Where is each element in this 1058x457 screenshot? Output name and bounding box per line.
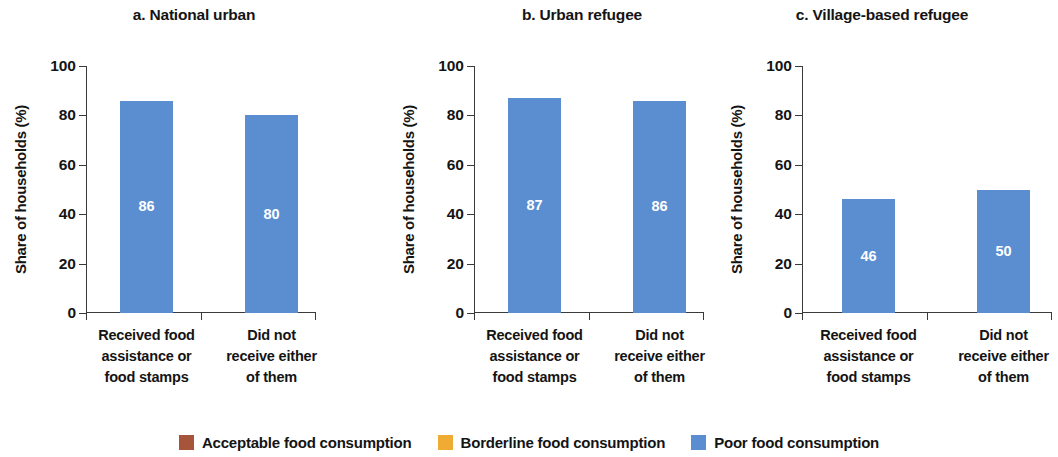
- x-axis-category-label: Received foodassistance orfood stamps: [799, 325, 939, 388]
- x-axis-tick-mark: [474, 313, 475, 320]
- x-axis-category-line: Received food: [465, 325, 605, 346]
- y-axis-tick-mark: [795, 115, 802, 116]
- x-axis-category-line: Received food: [77, 325, 217, 346]
- plot-area: 34194646450: [802, 66, 1052, 313]
- x-axis-category-line: receive either: [202, 346, 342, 367]
- y-axis-label: Share of households (%): [728, 66, 750, 313]
- y-axis-tick-mark: [467, 313, 474, 314]
- y-axis-tick-mark: [795, 66, 802, 67]
- bar-segment-value-label: 87: [508, 198, 561, 213]
- x-axis-category-line: food stamps: [77, 367, 217, 388]
- x-axis-category-line: assistance or: [77, 346, 217, 367]
- y-axis-tick-label: 80: [42, 106, 76, 124]
- x-axis-tick-mark: [86, 313, 87, 320]
- chart-legend: Acceptable food consumptionBorderline fo…: [0, 434, 1058, 451]
- y-axis-tick-label: 100: [758, 57, 792, 75]
- legend-swatch-icon: [438, 435, 453, 450]
- legend-label: Poor food consumption: [714, 434, 879, 451]
- x-axis-tick-mark: [315, 313, 316, 320]
- x-axis-tick-mark: [927, 313, 928, 320]
- x-axis-category-label: Did notreceive eitherof them: [934, 325, 1058, 388]
- y-axis-tick-mark: [79, 264, 86, 265]
- bar-segment-value-label: 86: [120, 199, 173, 214]
- x-axis-category-line: Did not: [202, 325, 342, 346]
- y-axis-tick-label: 0: [758, 304, 792, 322]
- y-axis-tick-label: 20: [430, 255, 464, 273]
- x-axis-tick-mark: [1051, 313, 1052, 320]
- stacked-bar[interactable]: 6887: [508, 66, 561, 313]
- stacked-bar[interactable]: 41086: [120, 66, 173, 313]
- y-axis-tick-label: 0: [430, 304, 464, 322]
- legend-item[interactable]: Poor food consumption: [691, 434, 879, 451]
- legend-label: Borderline food consumption: [461, 434, 666, 451]
- x-axis-tick-mark: [589, 313, 590, 320]
- chart-panel-a: a. National urbanShare of households (%)…: [0, 0, 388, 420]
- stacked-bar[interactable]: 46450: [977, 66, 1030, 313]
- x-axis-category-line: receive either: [934, 346, 1058, 367]
- y-axis-tick-label: 60: [42, 156, 76, 174]
- x-axis-category-line: assistance or: [799, 346, 939, 367]
- y-axis-tick-mark: [79, 214, 86, 215]
- y-axis-tick-label: 100: [42, 57, 76, 75]
- y-axis-tick-label: 20: [42, 255, 76, 273]
- y-axis-tick-label: 100: [430, 57, 464, 75]
- bar-segment-value-label: 50: [977, 244, 1030, 259]
- y-axis-tick-mark: [795, 214, 802, 215]
- panel-title: a. National urban: [0, 6, 388, 24]
- y-axis-tick-label: 60: [430, 156, 464, 174]
- y-axis-label: Share of households (%): [400, 66, 422, 313]
- x-axis-category-label: Received foodassistance orfood stamps: [465, 325, 605, 388]
- panel-title: c. Village-based refugee: [706, 6, 1058, 24]
- y-axis-tick-mark: [79, 66, 86, 67]
- x-axis-category-line: Received food: [799, 325, 939, 346]
- y-axis-label: Share of households (%): [12, 66, 34, 313]
- y-axis-tick-mark: [795, 313, 802, 314]
- chart-panel-c: c. Village-based refugeeShare of househo…: [706, 0, 1058, 420]
- y-axis-tick-label: 60: [758, 156, 792, 174]
- y-axis-tick-label: 40: [758, 205, 792, 223]
- bar-segment-value-label: 86: [633, 199, 686, 214]
- bar-segment-value-label: 80: [245, 207, 298, 222]
- legend-label: Acceptable food consumption: [202, 434, 412, 451]
- y-axis-line: [474, 66, 475, 313]
- stacked-bar-chart-figure: a. National urbanShare of households (%)…: [0, 0, 1058, 457]
- stacked-bar[interactable]: 81280: [245, 66, 298, 313]
- y-axis-tick-mark: [467, 165, 474, 166]
- legend-item[interactable]: Borderline food consumption: [438, 434, 666, 451]
- y-axis-tick-mark: [79, 165, 86, 166]
- x-axis-category-line: food stamps: [799, 367, 939, 388]
- y-axis-tick-label: 40: [42, 205, 76, 223]
- y-axis-tick-label: 20: [758, 255, 792, 273]
- x-axis-tick-mark: [802, 313, 803, 320]
- stacked-bar[interactable]: 7786: [633, 66, 686, 313]
- y-axis-line: [802, 66, 803, 313]
- x-axis-category-line: of them: [202, 367, 342, 388]
- y-axis-line: [86, 66, 87, 313]
- y-axis-tick-mark: [467, 214, 474, 215]
- legend-swatch-icon: [691, 435, 706, 450]
- y-axis-tick-label: 40: [430, 205, 464, 223]
- x-axis-category-line: of them: [934, 367, 1058, 388]
- bar-segment-value-label: 46: [842, 249, 895, 264]
- y-axis-tick-label: 80: [430, 106, 464, 124]
- y-axis-tick-mark: [795, 264, 802, 265]
- x-axis-tick-mark: [201, 313, 202, 320]
- x-axis-category-line: Did not: [934, 325, 1058, 346]
- y-axis-tick-label: 0: [42, 304, 76, 322]
- plot-area: 4108681280: [86, 66, 316, 313]
- y-axis-tick-mark: [79, 115, 86, 116]
- y-axis-tick-mark: [79, 313, 86, 314]
- stacked-bar[interactable]: 341946: [842, 66, 895, 313]
- x-axis-category-label: Did notreceive eitherof them: [202, 325, 342, 388]
- y-axis-tick-mark: [467, 115, 474, 116]
- y-axis-tick-label: 80: [758, 106, 792, 124]
- legend-swatch-icon: [179, 435, 194, 450]
- y-axis-tick-mark: [467, 264, 474, 265]
- x-axis-tick-mark: [703, 313, 704, 320]
- x-axis-category-line: assistance or: [465, 346, 605, 367]
- y-axis-tick-mark: [795, 165, 802, 166]
- legend-item[interactable]: Acceptable food consumption: [179, 434, 412, 451]
- plot-area: 68877786: [474, 66, 704, 313]
- x-axis-category-line: food stamps: [465, 367, 605, 388]
- y-axis-tick-mark: [467, 66, 474, 67]
